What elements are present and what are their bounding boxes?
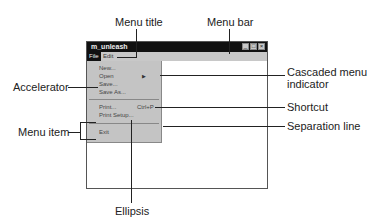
- menu-item-open[interactable]: Open: [99, 72, 114, 80]
- file-dropdown-menu: New... Open ▶ Save... Save As... Print..…: [87, 61, 162, 143]
- leader-line: [68, 87, 98, 88]
- leader-line: [80, 122, 81, 140]
- menu-separator: [89, 123, 159, 124]
- menu-item-new[interactable]: New...: [99, 64, 116, 72]
- menu-item-save-as[interactable]: Save As...: [99, 88, 126, 96]
- cascade-arrow-icon: ▶: [142, 72, 146, 80]
- leader-line: [160, 75, 285, 76]
- print-shortcut: Ctrl+P: [137, 103, 154, 111]
- callout-cascaded-indicator-2: indicator: [287, 78, 329, 90]
- callout-separation-line: Separation line: [287, 120, 360, 132]
- maximize-button[interactable]: □: [250, 43, 257, 50]
- window-controls: _ □ ×: [242, 43, 265, 50]
- callout-menu-title: Menu title: [115, 16, 163, 28]
- menu-item-exit[interactable]: Exit: [99, 128, 109, 136]
- menu-edit[interactable]: Edit: [101, 52, 115, 61]
- menu-item-save[interactable]: Save...: [99, 80, 118, 88]
- menu-file[interactable]: File: [87, 52, 101, 61]
- leader-line: [131, 120, 132, 203]
- menu-separator: [89, 99, 159, 100]
- leader-line: [80, 139, 96, 140]
- minimize-button[interactable]: _: [242, 43, 249, 50]
- callout-menu-item: Menu item: [18, 126, 69, 138]
- leader-line: [80, 122, 96, 123]
- leader-line: [155, 107, 285, 108]
- callout-ellipsis: Ellipsis: [115, 205, 149, 217]
- leader-line: [163, 126, 285, 127]
- leader-line: [136, 29, 137, 57]
- leader-line: [117, 57, 137, 58]
- application-window: m_unleash _ □ × File Edit New... Open ▶ …: [86, 41, 268, 189]
- close-button[interactable]: ×: [258, 43, 265, 50]
- callout-cascaded-indicator: Cascaded menu: [287, 66, 367, 78]
- leader-line: [68, 132, 80, 133]
- leader-line: [229, 29, 230, 54]
- menu-bar: File Edit: [87, 52, 267, 61]
- callout-accelerator: Accelerator: [13, 81, 69, 93]
- title-bar[interactable]: m_unleash _ □ ×: [87, 42, 267, 52]
- window-title: m_unleash: [91, 42, 128, 52]
- callout-shortcut: Shortcut: [287, 101, 328, 113]
- menu-item-print[interactable]: Print...: [99, 103, 116, 111]
- callout-menu-bar: Menu bar: [207, 16, 253, 28]
- menu-item-print-setup[interactable]: Print Setup...: [99, 111, 134, 119]
